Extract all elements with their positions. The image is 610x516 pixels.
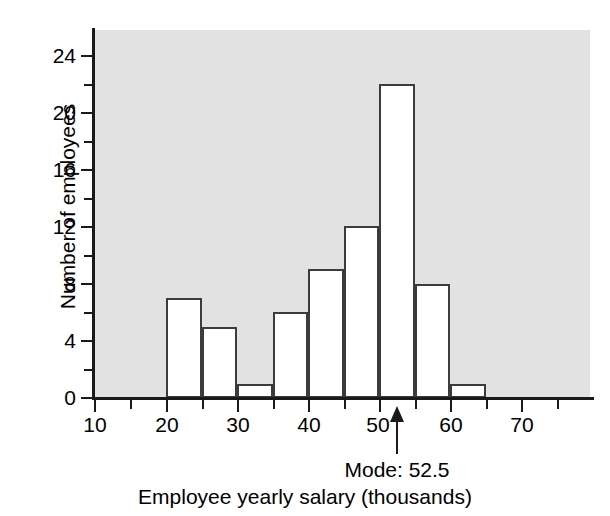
y-tick-24 [81, 55, 93, 57]
y-tick-minor-10 [84, 255, 93, 257]
histogram-bar [415, 284, 450, 398]
x-tick-label-30: 30 [215, 414, 261, 435]
histogram-bar [308, 269, 344, 398]
x-tick-minor-25 [202, 400, 204, 409]
y-tick-minor-18 [84, 141, 93, 143]
x-tick-label-70: 70 [499, 414, 545, 435]
x-tick-minor-65 [486, 400, 488, 409]
x-tick-minor-75 [557, 400, 559, 409]
y-tick-minor-14 [84, 198, 93, 200]
y-tick-12 [81, 226, 93, 228]
x-tick-label-60: 60 [428, 414, 474, 435]
y-tick-8 [81, 283, 93, 285]
x-tick-minor-35 [273, 400, 275, 409]
x-tick-70 [521, 400, 523, 412]
histogram-bar [344, 226, 379, 398]
y-tick-16 [81, 169, 93, 171]
x-tick-label-20: 20 [144, 414, 190, 435]
x-tick-label-10: 10 [72, 414, 118, 435]
y-tick-0 [81, 397, 93, 399]
x-tick-50 [379, 400, 381, 412]
y-tick-label-0: 0 [36, 387, 76, 408]
y-tick-minor-2 [84, 369, 93, 371]
x-tick-40 [308, 400, 310, 412]
y-tick-20 [81, 112, 93, 114]
histogram-bar [166, 298, 202, 398]
histogram-figure: 0 4 8 12 16 20 24 10 20 30 40 50 60 70 M… [0, 0, 610, 516]
y-tick-4 [81, 340, 93, 342]
histogram-bar [237, 384, 273, 398]
y-axis-title: Number of employees [57, 57, 78, 357]
x-tick-minor-15 [130, 400, 132, 409]
y-tick-minor-6 [84, 312, 93, 314]
histogram-bar [450, 384, 486, 398]
histogram-bar [379, 84, 415, 398]
x-tick-20 [166, 400, 168, 412]
x-axis-title: Employee yearly salary (thousands) [0, 486, 610, 507]
x-tick-60 [450, 400, 452, 412]
x-tick-minor-55 [415, 400, 417, 409]
x-tick-label-40: 40 [286, 414, 332, 435]
mode-arrow-shaft [396, 420, 398, 454]
histogram-bar [273, 312, 308, 398]
mode-annotation-label: Mode: 52.5 [267, 459, 527, 480]
x-tick-10 [94, 400, 96, 412]
histogram-bar [202, 327, 237, 398]
y-tick-minor-22 [84, 84, 93, 86]
x-tick-minor-45 [344, 400, 346, 409]
x-tick-30 [237, 400, 239, 412]
mode-arrow-head [390, 406, 404, 422]
